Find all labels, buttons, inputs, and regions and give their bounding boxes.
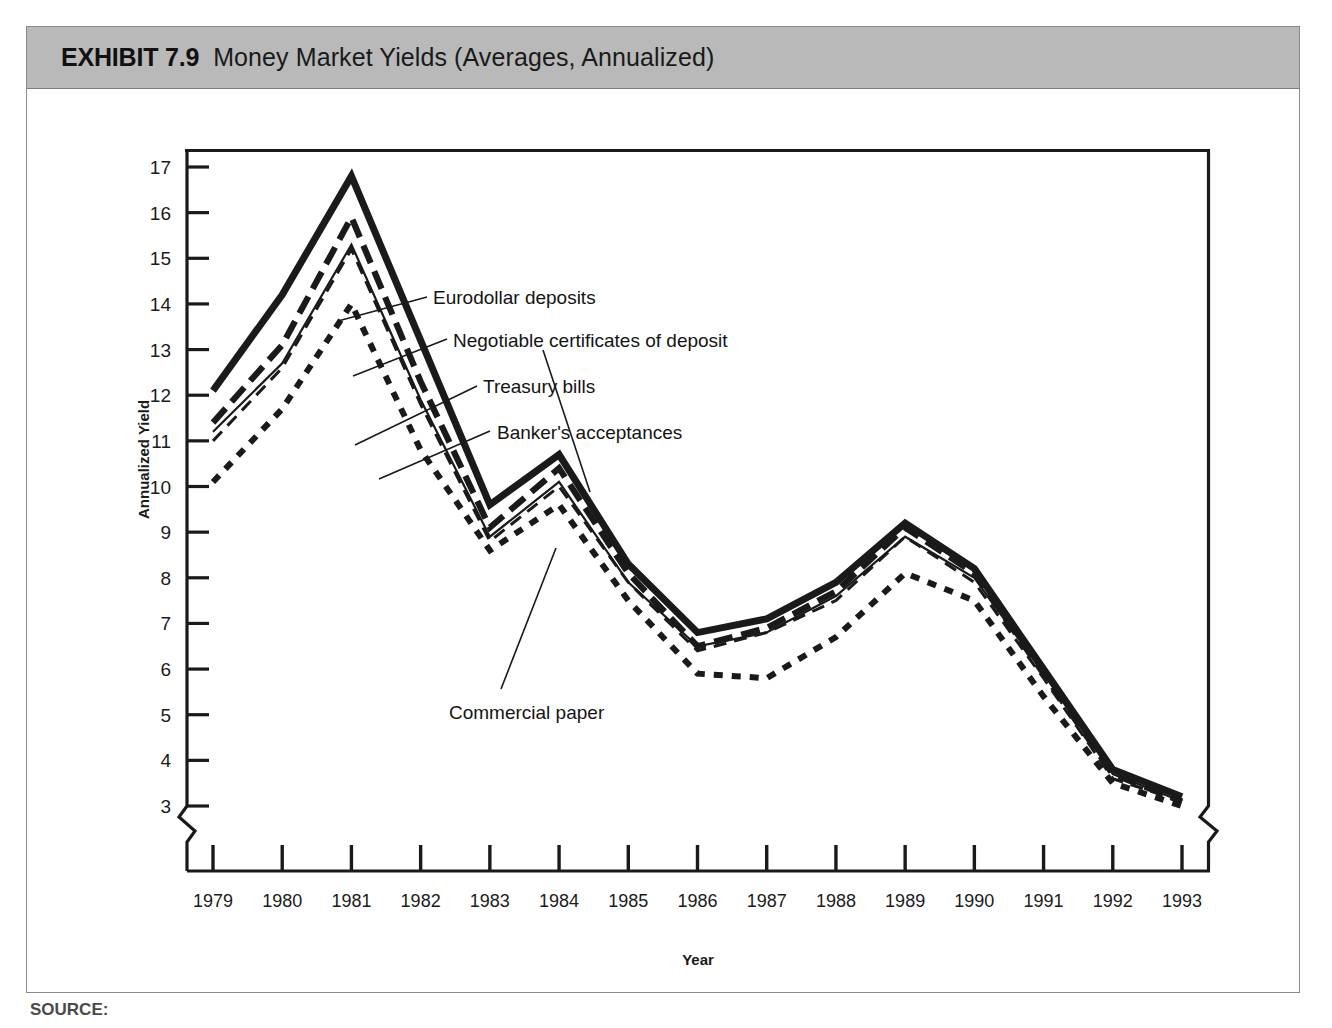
exhibit-figure: EXHIBIT 7.9 Money Market Yields (Average… [26,26,1300,993]
page-root: EXHIBIT 7.9 Money Market Yields (Average… [0,0,1332,1028]
y-tick-label: 10 [150,477,171,498]
series-line-eurodollar-deposits [213,176,1182,797]
source-note: SOURCE: [30,1000,1310,1026]
x-tick-label: 1991 [1024,891,1064,911]
y-tick-label: 5 [160,705,171,726]
x-tick-label: 1981 [331,891,371,911]
x-tick-label: 1990 [954,891,994,911]
x-tick-label: 1983 [470,891,510,911]
x-tick-label: 1993 [1162,891,1202,911]
y-tick-label: 9 [160,522,171,543]
right-axis-line [1200,149,1217,871]
exhibit-title: Money Market Yields (Averages, Annualize… [213,43,714,72]
x-tick-label: 1985 [608,891,648,911]
y-tick-label: 6 [160,659,171,680]
money-market-yields-line-chart: 34567891011121314151617 1979198019811982… [27,89,1299,994]
y-tick-label: 3 [160,796,171,817]
y-tick-label: 12 [150,385,171,406]
y-axis-ticks: 34567891011121314151617 [150,157,209,817]
annotation-treasury-bills: Treasury bills [483,376,595,397]
annotation-bankers-acceptances: Banker's acceptances [497,422,682,443]
x-axis-ticks: 1979198019811982198319841985198619871988… [193,845,1202,911]
y-tick-label: 14 [150,294,172,315]
x-tick-label: 1992 [1093,891,1133,911]
annotation-eurodollar-deposits: Eurodollar deposits [433,287,596,308]
y-tick-label: 16 [150,203,171,224]
y-tick-label: 4 [160,750,171,771]
y-tick-label: 17 [150,157,171,178]
exhibit-caption-band: EXHIBIT 7.9 Money Market Yields (Average… [27,27,1299,89]
plot-frame [179,149,1217,871]
x-tick-label: 1987 [747,891,787,911]
series-line-treasury-bills [213,304,1182,806]
annotation-negotiable-cd: Negotiable certificates of deposit [453,330,728,351]
y-tick-label: 7 [160,613,171,634]
source-label: SOURCE: [30,1000,108,1019]
series-line-commercial-paper [213,245,1182,802]
x-tick-label: 1989 [885,891,925,911]
x-tick-label: 1986 [677,891,717,911]
leader-line-commercial-paper-2 [501,548,556,689]
x-tick-label: 1984 [539,891,579,911]
x-tick-label: 1980 [262,891,302,911]
x-axis-title: Year [682,951,714,968]
annotation-commercial-paper: Commercial paper [449,702,605,723]
data-series-group [213,176,1182,806]
x-tick-label: 1982 [401,891,441,911]
x-tick-label: 1979 [193,891,233,911]
y-tick-label: 8 [160,568,171,589]
exhibit-caption: EXHIBIT 7.9 Money Market Yields (Average… [27,43,714,72]
chart-plot-area: 34567891011121314151617 1979198019811982… [27,89,1299,994]
y-tick-label: 11 [151,431,171,452]
y-axis-title: Annualized Yield [135,400,152,519]
exhibit-number: EXHIBIT 7.9 [61,43,199,72]
y-tick-label: 13 [150,340,171,361]
series-line-negotiable-certificates-of-deposit [213,217,1182,801]
y-tick-label: 15 [150,248,171,269]
x-tick-label: 1988 [816,891,856,911]
